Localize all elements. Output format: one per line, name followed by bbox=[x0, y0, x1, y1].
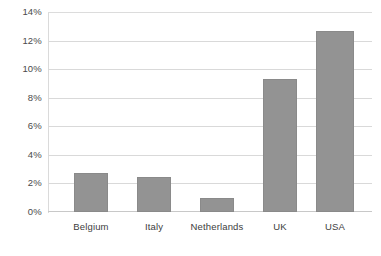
y-axis-tick-label: 2% bbox=[2, 178, 42, 188]
bar-belgium bbox=[74, 173, 108, 212]
x-axis-label-netherlands: Netherlands bbox=[191, 221, 244, 232]
y-axis-tick-label: 0% bbox=[2, 207, 42, 217]
x-axis-label-belgium: Belgium bbox=[73, 221, 108, 232]
gridline-14 bbox=[48, 12, 372, 13]
x-axis-label-usa: USA bbox=[325, 221, 345, 232]
bar-netherlands bbox=[200, 198, 234, 212]
y-axis-tick-label: 12% bbox=[2, 36, 42, 46]
bar-italy bbox=[137, 177, 171, 212]
y-axis-tick-label: 10% bbox=[2, 64, 42, 74]
bar-chart: 14% 12% 10% 8% 6% 4% 2% 0% Belgium Italy… bbox=[0, 0, 381, 256]
y-axis-tick-label: 6% bbox=[2, 121, 42, 131]
y-axis-tick-label: 14% bbox=[2, 7, 42, 17]
bar-uk bbox=[263, 79, 297, 212]
y-axis-tick-label: 8% bbox=[2, 93, 42, 103]
bar-usa bbox=[316, 31, 354, 212]
x-axis-label-italy: Italy bbox=[145, 221, 163, 232]
x-axis-label-uk: UK bbox=[273, 221, 287, 232]
y-axis-tick-label: 4% bbox=[2, 150, 42, 160]
plot-area bbox=[48, 12, 372, 212]
